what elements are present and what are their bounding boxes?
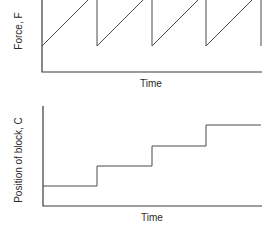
force-x-axis-label: Time <box>140 78 162 89</box>
position-chart: Time Position of block, C <box>13 106 262 223</box>
force-sawtooth-line <box>42 0 261 46</box>
position-staircase-line <box>43 125 261 186</box>
force-chart: Time Force, F <box>13 0 262 89</box>
force-y-axis-label: Force, F <box>13 12 24 49</box>
position-x-axis-label: Time <box>141 212 163 223</box>
figure: Time Force, F Time Position of block, C <box>0 0 278 234</box>
position-y-axis-label: Position of block, C <box>13 117 24 203</box>
